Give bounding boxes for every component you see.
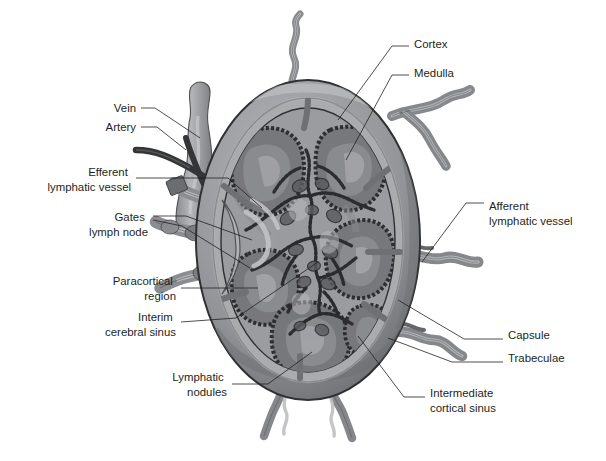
label-line: lymphatic vessel [47,181,131,193]
label-medulla: Medulla [414,67,455,79]
label-line: nodules [187,386,227,398]
label-capsule: Capsule [508,329,550,341]
lymph-node-body [196,80,420,400]
label-line: Gates [114,211,145,223]
label-cortex: Cortex [414,38,448,50]
label-line: Paracortical [113,275,173,287]
label-line: region [144,290,176,302]
label-vein: Vein [114,102,136,114]
label-line: lymph node [89,226,148,238]
label-line: Efferent [88,166,129,178]
label-line: Afferent [489,200,530,212]
label-line: cortical sinus [430,402,496,414]
label-line: Lymphatic [172,371,224,383]
figure-root: Vein Artery Efferent lymphatic vessel Ga… [0,0,606,461]
label-line: lymphatic vessel [489,215,573,227]
label-line: cerebral sinus [105,326,176,338]
label-line: Interim [138,311,173,323]
label-line: Intermediate [430,387,493,399]
lymph-node-diagram: Vein Artery Efferent lymphatic vessel Ga… [0,0,606,461]
label-trabeculae: Trabeculae [508,352,565,364]
label-artery: Artery [106,121,137,133]
